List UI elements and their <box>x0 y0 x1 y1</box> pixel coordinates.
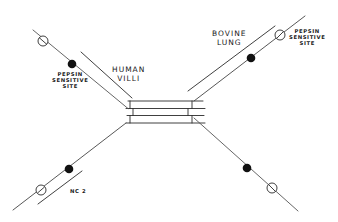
label-site: SITE <box>289 40 325 46</box>
label-bovine-lung: BOVINE LUNG <box>212 30 246 47</box>
label-villi: VILLI <box>112 75 145 84</box>
label-pepsin-sensitive-site-right: PEPSIN SENSITIVE SITE <box>289 28 325 46</box>
pepsin-site-dot-lower-left <box>65 165 74 174</box>
pepsin-site-dot-lower-right <box>243 164 252 173</box>
pepsin-site-dot-upper-left <box>68 60 77 69</box>
central-helix-block <box>126 101 205 123</box>
collagen-diagram <box>0 0 338 222</box>
label-site: SITE <box>52 83 88 89</box>
label-nc2: NC 2 <box>70 188 86 194</box>
label-human-villi: HUMAN VILLI <box>112 66 145 83</box>
label-lung: LUNG <box>212 39 246 48</box>
label-pepsin-sensitive-site-left: PEPSIN SENSITIVE SITE <box>52 71 88 89</box>
pepsin-site-dot-upper-right <box>247 54 256 63</box>
